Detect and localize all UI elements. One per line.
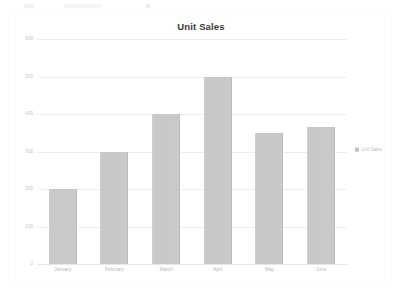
gridline: 0 [37,264,347,265]
document-top-strip [0,0,400,14]
y-axis-tick-label: 500 [25,74,33,79]
legend-swatch-unit-sales [355,148,359,152]
legend-label-unit-sales: Unit Sales [361,148,382,153]
y-axis-tick-label: 600 [25,37,33,42]
x-axis-tick-label: March [159,268,172,273]
bars-group: JanuaryFebruaryMarchAprilMayJune [37,39,347,264]
bar-slot: June [295,39,347,264]
x-axis-tick-label: June [316,268,326,273]
bar-june[interactable] [307,127,335,264]
bar-february[interactable] [100,152,128,265]
x-axis-tick-label: February [105,268,124,273]
bar-january[interactable] [49,189,77,264]
y-axis-tick-label: 200 [25,187,33,192]
bar-march[interactable] [152,114,180,264]
y-axis-tick-label: 300 [25,149,33,154]
y-axis-tick-label: 0 [30,262,33,267]
bar-slot: January [37,39,89,264]
strip-mark [146,4,150,8]
strip-mark [24,4,34,8]
bar-slot: April [192,39,244,264]
x-axis-tick-label: April [213,268,223,273]
y-axis-tick-label: 100 [25,224,33,229]
y-axis-tick-label: 400 [25,112,33,117]
bar-may[interactable] [255,133,283,264]
strip-mark [64,4,102,8]
chart-title: Unit Sales [9,21,393,32]
bar-april[interactable] [204,77,232,265]
chart-container[interactable]: Unit Sales 0100200300400500600 JanuaryFe… [8,14,392,286]
bar-slot: May [244,39,296,264]
bar-slot: March [140,39,192,264]
x-axis-tick-label: May [265,268,274,273]
plot-area: 0100200300400500600 JanuaryFebruaryMarch… [37,39,347,264]
x-axis-tick-label: January [54,268,71,273]
chart-legend[interactable]: Unit Sales [355,148,382,153]
bar-slot: February [89,39,141,264]
